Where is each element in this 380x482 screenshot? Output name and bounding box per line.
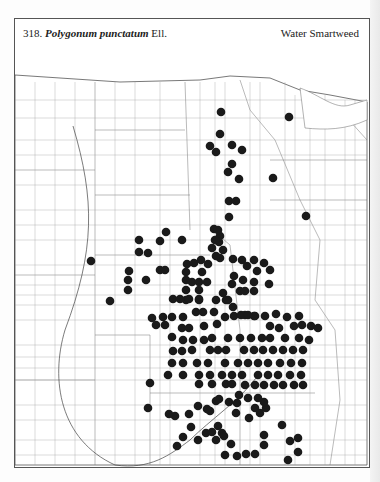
occurrence-dot (189, 336, 198, 345)
occurrence-dot (244, 394, 253, 403)
occurrence-dot (250, 287, 259, 296)
occurrence-dot (232, 197, 241, 206)
occurrence-dot (305, 336, 314, 345)
occurrence-dot (227, 440, 236, 449)
occurrence-dot (195, 371, 204, 380)
occurrence-dot (179, 313, 188, 322)
occurrence-dot (294, 448, 303, 457)
occurrence-dot (295, 312, 304, 321)
occurrence-dot (212, 252, 221, 261)
occurrence-dot (229, 255, 238, 264)
occurrence-dot (234, 359, 243, 368)
occurrence-dot (239, 276, 248, 285)
occurrence-dot (212, 436, 221, 445)
occurrence-dot (179, 336, 188, 345)
occurrence-dot (185, 295, 194, 304)
occurrence-dot (195, 380, 204, 389)
occurrence-dot (200, 322, 209, 331)
occurrence-dot (228, 160, 237, 169)
occurrence-dot (298, 321, 307, 330)
occurrence-dot (208, 334, 217, 343)
occurrence-dot (254, 394, 263, 403)
occurrence-dot (289, 346, 298, 355)
occurrence-dot (221, 359, 230, 368)
occurrence-dot (235, 391, 244, 400)
occurrence-dot (218, 371, 227, 380)
occurrence-dot (254, 359, 263, 368)
occurrence-dot (298, 359, 307, 368)
occurrence-dot (260, 259, 269, 268)
occurrence-dot (247, 334, 256, 343)
occurrence-dot (173, 442, 182, 451)
occurrence-dot (156, 237, 165, 246)
occurrence-dot (299, 346, 308, 355)
occurrence-dot (221, 313, 230, 322)
occurrence-dot (203, 278, 212, 287)
occurrence-dot (193, 359, 202, 368)
occurrence-dot (125, 267, 134, 276)
occurrence-dot (212, 148, 221, 157)
occurrence-dot (233, 452, 242, 461)
occurrence-dot (210, 308, 219, 317)
occurrence-dot (178, 236, 187, 245)
occurrence-dot (199, 308, 208, 317)
occurrence-dot (258, 334, 267, 343)
occurrence-dot (286, 437, 295, 446)
occurrence-dot (146, 379, 155, 388)
occurrence-dot (290, 381, 299, 390)
occurrence-dot (269, 174, 278, 183)
occurrence-dot (272, 310, 281, 319)
occurrence-dot (159, 313, 168, 322)
occurrence-dot (208, 380, 217, 389)
occurrence-dot (213, 320, 222, 329)
occurrence-dot (269, 346, 278, 355)
occurrence-dot (225, 398, 234, 407)
occurrence-dot (302, 212, 311, 221)
occurrence-dot (284, 456, 293, 465)
occurrence-dot (142, 276, 151, 285)
occurrence-dot (266, 266, 275, 275)
occurrence-dot (244, 359, 253, 368)
occurrence-dot (135, 248, 144, 257)
occurrence-dot (204, 359, 213, 368)
occurrence-dot (179, 433, 188, 442)
occurrence-dot (185, 410, 194, 419)
occurrence-dot (87, 257, 96, 266)
occurrence-dot (206, 371, 215, 380)
occurrence-dot (299, 381, 308, 390)
occurrence-dot (212, 296, 221, 305)
occurrence-dot (265, 280, 274, 289)
occurrence-dots (87, 108, 323, 465)
occurrence-dot (195, 295, 204, 304)
occurrence-dot (260, 381, 269, 390)
occurrence-dot (161, 321, 170, 330)
occurrence-dot (297, 371, 306, 380)
occurrence-dot (176, 295, 185, 304)
occurrence-dot (217, 108, 226, 117)
occurrence-dot (245, 414, 254, 423)
page-edge (370, 0, 380, 482)
occurrence-dot (168, 359, 177, 368)
occurrence-dot (222, 346, 231, 355)
occurrence-dot (224, 296, 233, 305)
occurrence-dot (251, 450, 260, 459)
occurrence-dot (290, 322, 299, 331)
occurrence-dot (194, 436, 203, 445)
occurrence-dot (215, 395, 224, 404)
occurrence-dot (276, 359, 285, 368)
occurrence-dot (204, 260, 213, 269)
occurrence-dot (195, 286, 204, 295)
occurrence-dot (185, 324, 194, 333)
occurrence-dot (251, 381, 260, 390)
occurrence-dot (238, 146, 247, 155)
occurrence-dot (254, 371, 263, 380)
occurrence-dot (264, 359, 273, 368)
occurrence-dot (233, 399, 242, 408)
occurrence-dot (208, 244, 217, 253)
occurrence-dot (161, 266, 170, 275)
occurrence-dot (124, 276, 133, 285)
occurrence-dot (241, 381, 250, 390)
occurrence-dot (179, 371, 188, 380)
occurrence-dot (206, 346, 215, 355)
occurrence-dot (165, 410, 174, 419)
